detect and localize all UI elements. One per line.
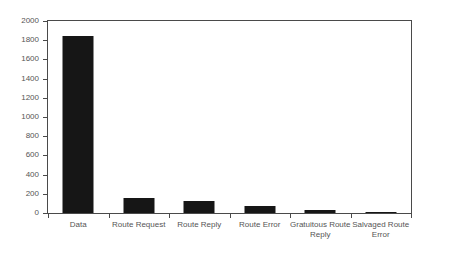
y-axis-tick-label: 1400 xyxy=(21,73,39,84)
y-axis-tick-label: 1000 xyxy=(21,111,39,122)
x-axis-tick-mark xyxy=(411,213,412,218)
x-axis-category-label-line: Route Request xyxy=(109,220,170,230)
x-axis-category-label-line: Gratuitous Route xyxy=(290,220,351,230)
x-axis-tick-mark xyxy=(48,213,49,218)
y-axis-tick-mark xyxy=(43,194,47,195)
x-axis-category-label: Route Error xyxy=(230,220,291,230)
bar-slot xyxy=(169,21,230,213)
x-axis-tick-mark xyxy=(290,213,291,218)
y-axis-tick-mark xyxy=(43,117,47,118)
y-axis-tick-mark xyxy=(43,136,47,137)
x-axis-ticks xyxy=(48,213,411,218)
x-axis-category-label: Gratuitous RouteReply xyxy=(290,220,351,240)
y-axis-tick-mark xyxy=(43,79,47,80)
y-axis-tick-mark xyxy=(43,98,47,99)
y-axis-tick-label: 400 xyxy=(26,169,39,180)
y-axis-tick-label: 1600 xyxy=(21,53,39,64)
bar xyxy=(244,206,275,213)
y-axis-tick-label: 200 xyxy=(26,188,39,199)
x-axis-category-label: Salvaged RouteError xyxy=(351,220,412,240)
y-axis-tick-mark xyxy=(43,213,47,214)
bar-chart-figure: 0200400600800100012001400160018002000 Da… xyxy=(0,0,458,256)
x-axis-tick-mark xyxy=(109,213,110,218)
y-axis-tick-label: 1200 xyxy=(21,92,39,103)
y-axis-tick-label: 1800 xyxy=(21,34,39,45)
y-axis-tick-mark xyxy=(43,155,47,156)
bar-slot xyxy=(109,21,170,213)
x-axis-category-label: Data xyxy=(48,220,109,230)
x-axis-category-label-line: Data xyxy=(48,220,109,230)
y-axis-tick-mark xyxy=(43,40,47,41)
x-axis-category-label: Route Request xyxy=(109,220,170,230)
x-axis-labels: DataRoute RequestRoute ReplyRoute ErrorG… xyxy=(48,220,411,250)
y-axis-tick-mark xyxy=(43,59,47,60)
y-axis: 0200400600800100012001400160018002000 xyxy=(0,20,47,214)
y-axis-tick-label: 2000 xyxy=(21,15,39,26)
x-axis-tick-mark xyxy=(230,213,231,218)
y-axis-tick-label: 600 xyxy=(26,149,39,160)
x-axis-category-label-line: Route Error xyxy=(230,220,291,230)
x-axis-category-label-line: Route Reply xyxy=(169,220,230,230)
bar-slot xyxy=(351,21,412,213)
x-axis-tick-mark xyxy=(351,213,352,218)
y-axis-tick-mark xyxy=(43,21,47,22)
x-axis-category-label: Route Reply xyxy=(169,220,230,230)
bar xyxy=(123,198,154,213)
y-axis-tick-mark xyxy=(43,175,47,176)
bar xyxy=(184,201,215,213)
x-axis-tick-mark xyxy=(169,213,170,218)
x-axis-category-label-line: Error xyxy=(351,230,412,240)
bar-slot xyxy=(230,21,291,213)
bars-layer xyxy=(48,21,411,213)
bar-slot xyxy=(48,21,109,213)
x-axis-category-label-line: Salvaged Route xyxy=(351,220,412,230)
bar xyxy=(63,36,94,213)
x-axis-category-label-line: Reply xyxy=(290,230,351,240)
bar-slot xyxy=(290,21,351,213)
y-axis-tick-label: 0 xyxy=(35,207,39,218)
y-axis-tick-label: 800 xyxy=(26,130,39,141)
